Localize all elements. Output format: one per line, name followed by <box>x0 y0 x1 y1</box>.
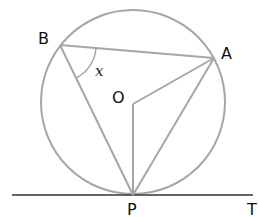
label-t: T <box>246 200 257 217</box>
label-angle-x: x <box>95 62 104 80</box>
radius-oa <box>133 58 214 104</box>
angle-arc-x <box>76 48 96 78</box>
label-b: B <box>38 29 49 48</box>
chord-ap <box>133 58 214 195</box>
label-p: P <box>127 200 137 217</box>
label-a: A <box>221 44 232 63</box>
circle-theorem-diagram: B A O P T x <box>0 0 259 217</box>
chord-ba <box>60 45 214 58</box>
label-o: O <box>112 88 125 107</box>
